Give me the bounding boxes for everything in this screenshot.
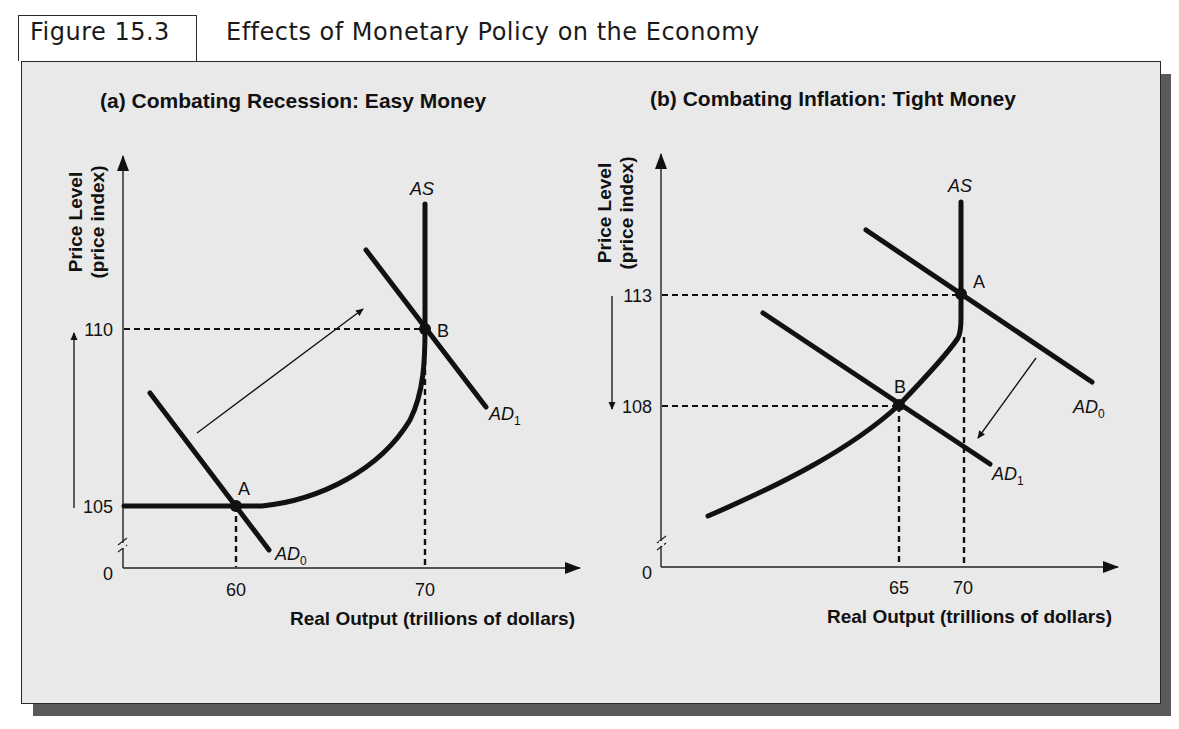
panel-b-label-b: B bbox=[894, 377, 906, 397]
panel-b-point-b bbox=[893, 399, 905, 411]
panel-a-x-axis-label: Real Output (trillions of dollars) bbox=[290, 608, 575, 629]
panel-b-tick-70: 70 bbox=[953, 578, 973, 598]
panel-a: (a) Combating Recession: Easy Money Pric… bbox=[65, 89, 580, 629]
panel-a-label-ad0: AD0 bbox=[274, 544, 307, 568]
panel-b-y-axis-label: Price Level (price index) bbox=[594, 157, 637, 270]
panel-a-label-b: B bbox=[437, 321, 449, 341]
panel-a-shift-arrow bbox=[197, 309, 363, 433]
panel-b-ad1-curve bbox=[763, 313, 990, 464]
panel-b-tick-0: 0 bbox=[642, 563, 652, 583]
panel-a-y-axis-label: Price Level (price index) bbox=[65, 166, 108, 279]
panel-a-label-a: A bbox=[238, 479, 250, 499]
panel-a-tick-0: 0 bbox=[103, 564, 113, 584]
panel-a-tick-105: 105 bbox=[83, 497, 113, 517]
svg-text:Price Level: Price Level bbox=[65, 172, 86, 272]
panel-a-tick-70: 70 bbox=[415, 580, 435, 600]
panel-a-point-b bbox=[419, 323, 431, 335]
panel-b-x-axis-label: Real Output (trillions of dollars) bbox=[827, 606, 1112, 627]
panel-b-ad0-curve bbox=[866, 230, 1092, 382]
panel-a-tick-110: 110 bbox=[84, 320, 113, 340]
svg-text:Price Level: Price Level bbox=[594, 163, 615, 263]
panel-a-label-as: AS bbox=[409, 179, 434, 199]
panel-a-as-curve bbox=[124, 204, 425, 506]
panel-a-tick-60: 60 bbox=[226, 580, 246, 600]
panel-a-label-ad1: AD1 bbox=[488, 404, 521, 428]
panel-b-label-a: A bbox=[973, 272, 985, 292]
panel-b-point-a bbox=[955, 288, 967, 300]
panel-b-label-as: AS bbox=[947, 176, 972, 196]
svg-text:(price index): (price index) bbox=[616, 157, 637, 270]
panel-a-ad0-curve bbox=[150, 393, 269, 550]
panel-b-tick-65: 65 bbox=[889, 578, 909, 598]
panel-b: (b) Combating Inflation: Tight Money Pri… bbox=[594, 87, 1118, 627]
panel-b-tick-108: 108 bbox=[622, 397, 652, 417]
svg-text:(price index): (price index) bbox=[87, 166, 108, 279]
panel-b-shift-arrow bbox=[978, 358, 1036, 438]
panel-a-title: (a) Combating Recession: Easy Money bbox=[100, 89, 487, 112]
panel-b-label-ad1: AD1 bbox=[991, 464, 1024, 488]
panel-a-point-a bbox=[230, 500, 242, 512]
panel-b-title: (b) Combating Inflation: Tight Money bbox=[650, 87, 1016, 110]
panel-b-tick-113: 113 bbox=[623, 286, 652, 306]
panel-b-label-ad0: AD0 bbox=[1072, 397, 1105, 421]
